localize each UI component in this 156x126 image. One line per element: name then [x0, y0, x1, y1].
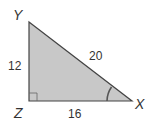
triangle-xyz: [29, 22, 132, 101]
side-label-yx: 20: [89, 49, 103, 63]
side-label-zx: 16: [68, 107, 82, 121]
vertex-label-y: Y: [13, 7, 24, 23]
vertex-label-x: X: [134, 96, 145, 112]
vertex-label-z: Z: [13, 105, 23, 121]
side-label-yz: 12: [8, 59, 22, 73]
triangle-diagram: Y Z X 12 16 20: [0, 0, 156, 126]
